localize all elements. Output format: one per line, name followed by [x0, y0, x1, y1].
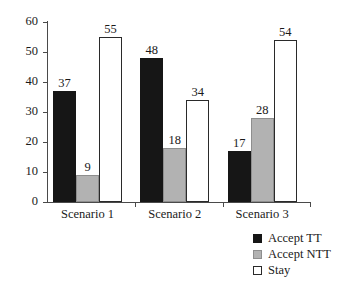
x-axis-line: [47, 202, 311, 203]
bar-value-label: 48: [146, 43, 159, 57]
x-axis-category-label: Scenario 3: [202, 206, 322, 222]
white-square-icon: [253, 266, 262, 275]
y-axis-tick-mark: [43, 142, 47, 143]
legend-item: Accept TT: [253, 231, 331, 246]
grouped-bar-chart: 0102030405060 37955481834172854 Scenario…: [0, 0, 352, 285]
bar-value-label: 55: [104, 22, 117, 36]
bar-stay: 55: [99, 37, 122, 202]
y-axis-tick-label: 30: [26, 104, 39, 119]
y-axis-tick-label: 60: [26, 14, 39, 29]
black-square-icon: [253, 234, 262, 243]
legend-item: Stay: [253, 263, 331, 278]
y-axis-tick-label: 40: [26, 74, 39, 89]
bar-accept-tt: 37: [53, 91, 76, 202]
bar-accept-tt: 17: [228, 151, 251, 202]
bar-accept-ntt: 9: [76, 175, 99, 202]
bar-value-label: 18: [169, 133, 182, 147]
legend-item-label: Accept NTT: [268, 247, 331, 262]
legend-item-label: Stay: [268, 263, 290, 278]
y-axis-tick-mark: [43, 82, 47, 83]
y-axis-tick-label: 50: [26, 44, 39, 59]
y-axis-tick-label: 10: [26, 164, 39, 179]
legend-item: Accept NTT: [253, 247, 331, 262]
y-axis-tick-mark: [43, 172, 47, 173]
bar-stay: 54: [274, 40, 297, 202]
y-axis-tick-label: 20: [26, 134, 39, 149]
bar-accept-ntt: 18: [163, 148, 186, 202]
bar-value-label: 9: [84, 160, 90, 174]
plot-area: 37955481834172854: [48, 22, 310, 202]
y-axis-tick-mark: [43, 112, 47, 113]
bar-value-label: 34: [192, 85, 205, 99]
bar-accept-ntt: 28: [251, 118, 274, 202]
y-axis-tick-mark: [43, 22, 47, 23]
y-axis-tick-mark: [43, 52, 47, 53]
y-axis-tick-mark: [43, 202, 47, 203]
bar-value-label: 17: [233, 136, 246, 150]
bar-accept-tt: 48: [140, 58, 163, 202]
bar-value-label: 28: [256, 103, 269, 117]
gray-square-icon: [253, 250, 262, 259]
bar-stay: 34: [186, 100, 209, 202]
bar-value-label: 54: [279, 25, 292, 39]
chart-legend: Accept TTAccept NTTStay: [253, 231, 331, 279]
legend-item-label: Accept TT: [268, 231, 322, 246]
bar-value-label: 37: [58, 76, 71, 90]
